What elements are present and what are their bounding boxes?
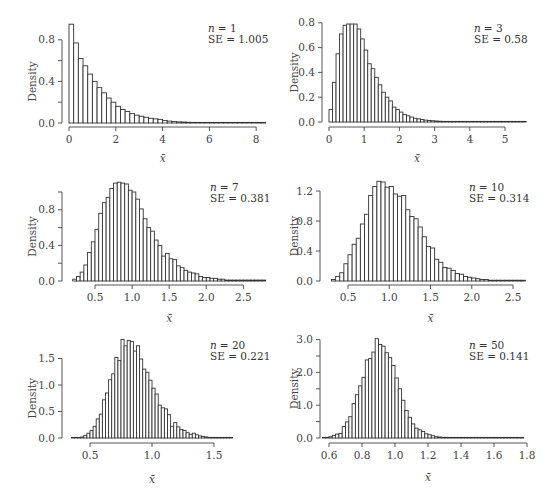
histogram-bar xyxy=(480,280,484,282)
histogram-bar xyxy=(517,437,520,438)
histogram-bar xyxy=(223,122,228,123)
histogram-bar xyxy=(127,340,130,438)
sampling-distribution-figure: 0.00.40.8 02468 Density x̄ n= 1 SE = 1.0… xyxy=(0,0,551,503)
x-axis: 012345 xyxy=(326,127,509,145)
histogram-bar xyxy=(491,437,494,438)
histogram-bar xyxy=(347,24,351,122)
histogram-bar xyxy=(226,437,229,438)
histogram-bar xyxy=(389,101,393,122)
histogram-bar xyxy=(228,122,233,123)
x-tick-label: 1.6 xyxy=(486,449,503,461)
histogram-bar xyxy=(143,369,146,438)
histogram-bar xyxy=(443,268,447,282)
histogram-bar xyxy=(195,274,199,281)
y-axis: 0.00.20.40.60.8 xyxy=(298,16,322,127)
histogram-bar xyxy=(426,247,430,282)
histogram-bar xyxy=(229,280,233,281)
histogram-bar xyxy=(464,277,468,282)
x-axis-title: x̄ xyxy=(149,473,155,485)
histogram-bar xyxy=(392,366,395,438)
x-tick-label: 1.0 xyxy=(387,449,404,461)
histogram-bar xyxy=(139,116,144,123)
y-axis-title: Density xyxy=(26,378,38,418)
histogram-bar xyxy=(180,268,184,281)
histogram-bar xyxy=(243,280,247,281)
standard-error-label: SE = 0.314 xyxy=(469,192,530,204)
histogram-bar xyxy=(92,81,97,123)
histogram-bar xyxy=(232,280,236,281)
histogram-bar xyxy=(410,217,414,282)
y-tick-label: 0.2 xyxy=(298,91,315,103)
histogram-bar xyxy=(484,280,488,282)
x-tick-label: 3 xyxy=(431,133,438,145)
histogram-bar xyxy=(163,120,168,123)
histogram-bar xyxy=(421,431,424,438)
histogram-bar xyxy=(405,410,408,438)
histogram-bar xyxy=(445,121,449,122)
panel-n1: 0.00.40.8 02468 Density x̄ n= 1 SE = 1.0… xyxy=(26,22,268,164)
y-axis: 0.00.51.01.5 xyxy=(38,352,62,444)
x-tick-label: 0.5 xyxy=(82,449,99,461)
y-tick-label: 1.2 xyxy=(296,185,313,197)
histogram-bar xyxy=(115,357,118,438)
histogram-bar xyxy=(73,279,77,281)
histogram-bar xyxy=(413,118,417,122)
histogram-bar xyxy=(359,386,362,438)
histogram-bar xyxy=(514,437,517,438)
histogram-bar xyxy=(236,280,240,281)
histogram-bar xyxy=(418,430,421,438)
histogram-bar xyxy=(230,437,233,438)
histogram-bar xyxy=(369,359,372,438)
histogram-bar xyxy=(377,181,381,281)
panel-n7: 0.00.40.8 0.51.01.52.02.5 Density x̄ n= … xyxy=(26,181,270,324)
histogram-bar xyxy=(350,24,354,122)
histogram-bar xyxy=(504,437,507,438)
x-tick-label: 6 xyxy=(206,133,213,145)
histogram-bar xyxy=(521,280,525,281)
histogram-bar xyxy=(442,121,446,122)
histogram-bar xyxy=(114,183,118,281)
histogram-bar xyxy=(388,358,391,438)
histogram-bar xyxy=(93,426,96,438)
histogram-bar xyxy=(361,39,365,122)
histogram-bar xyxy=(80,272,84,281)
histogram-bar xyxy=(487,121,491,122)
x-axis-title: x̄ xyxy=(425,471,431,483)
histogram-bar xyxy=(418,227,422,281)
histogram-bar xyxy=(365,214,369,281)
histogram-bar xyxy=(177,427,180,438)
x-tick-label: 1 xyxy=(361,133,368,145)
histogram-bar xyxy=(336,434,339,438)
histogram-bar xyxy=(106,393,109,438)
histogram-bar xyxy=(492,280,496,281)
histogram-bar xyxy=(329,110,333,122)
histogram-bar xyxy=(402,400,405,438)
histogram-bar xyxy=(214,437,217,438)
histogram-bar xyxy=(398,389,401,438)
histogram-bar xyxy=(121,339,124,438)
histogram-bar xyxy=(99,213,103,281)
histogram-bar xyxy=(477,121,481,122)
histogram-bar xyxy=(192,433,195,438)
histogram-bar xyxy=(494,437,497,438)
histogram-bar xyxy=(322,437,325,438)
histogram-bar xyxy=(470,121,474,122)
histogram-bar xyxy=(111,102,116,123)
histogram-bar xyxy=(177,266,181,281)
histogram-bar xyxy=(146,372,149,438)
x-axis-title: x̄ xyxy=(414,152,420,164)
y-tick-label: 0.0 xyxy=(38,275,55,287)
histogram-bar xyxy=(385,187,389,281)
histogram-bar xyxy=(505,121,509,122)
histogram-bar xyxy=(520,437,523,438)
histogram-bar xyxy=(336,277,340,282)
histogram-bar xyxy=(191,122,196,123)
histogram-bar xyxy=(144,117,149,123)
histogram-bar xyxy=(412,424,415,438)
histogram-bar xyxy=(422,237,426,281)
histogram-bar xyxy=(488,280,492,281)
histogram-bar xyxy=(261,122,266,123)
histogram-bar xyxy=(356,238,360,281)
histogram-bar xyxy=(173,260,177,281)
histogram-bar xyxy=(458,437,461,438)
